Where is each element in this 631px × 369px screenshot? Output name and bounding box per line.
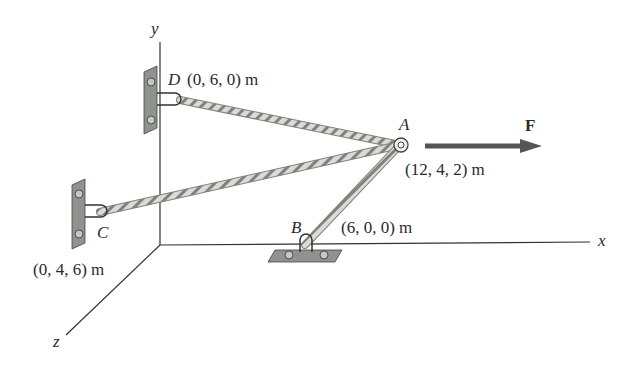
point-B-coords: (6, 0, 0) m	[341, 219, 412, 236]
rope-AC	[100, 145, 400, 212]
z-axis	[66, 245, 160, 335]
point-A-label: A	[399, 116, 409, 133]
y-axis-label: y	[151, 20, 159, 37]
point-D-label: D	[168, 71, 180, 88]
diagram-canvas: y x z D (0, 6, 0) m A (12, 4, 2) m F C (…	[0, 0, 631, 369]
force-F-label: F	[525, 117, 535, 134]
rope-AD	[180, 100, 400, 145]
ring-A	[394, 138, 408, 152]
point-D-coords: (0, 6, 0) m	[187, 71, 258, 88]
force-arrow-F	[425, 139, 542, 153]
x-axis-label: x	[598, 232, 606, 249]
point-A-coords: (12, 4, 2) m	[405, 161, 485, 178]
point-B-label: B	[291, 219, 301, 236]
figure-graphics	[0, 0, 631, 369]
z-axis-label: z	[53, 333, 60, 350]
x-axis	[160, 242, 590, 245]
point-C-label: C	[97, 224, 108, 241]
point-C-coords: (0, 4, 6) m	[33, 261, 104, 278]
